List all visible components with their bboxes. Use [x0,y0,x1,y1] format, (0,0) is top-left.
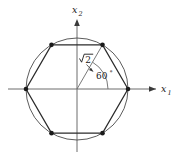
angle-annotation: 60 ° [96,69,113,82]
hexagon-figure: 2 60 ° x 1 x 2 [0,0,175,160]
vertex-dot [49,131,54,136]
vertex-dot [100,131,105,136]
x2-label-base: x [72,4,78,15]
x1-axis-label: x 1 [161,83,172,97]
vertex-dot [126,87,131,92]
angle-value-label: 60 [96,71,108,81]
vertex-dot [49,43,54,48]
radius-value-label: 2 [85,55,91,65]
angle-degree-symbol: ° [110,69,113,77]
vertex-dot [100,43,105,48]
radius-leader-arrowhead-icon [89,68,94,72]
x2-axis-arrowhead-icon [74,19,80,26]
vertex-dot [24,87,29,92]
x2-axis-label: x 2 [72,4,83,18]
x2-label-subscript: 2 [78,10,83,18]
x1-axis [8,86,156,92]
figure-canvas: 2 60 ° x 1 x 2 [0,0,175,160]
x1-label-base: x [161,83,167,94]
x1-axis-arrowhead-icon [149,86,156,92]
x1-label-subscript: 1 [168,89,172,97]
square-root-icon [80,54,85,62]
